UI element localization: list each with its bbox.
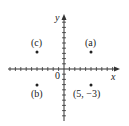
- y-axis-label: y: [54, 12, 60, 23]
- point-c: (c): [31, 37, 42, 54]
- y-axis-arrow-icon: [62, 14, 67, 20]
- point-given: (5, −3): [73, 84, 100, 101]
- point-b-dot: [36, 84, 39, 87]
- point-a-label: (a): [85, 37, 96, 49]
- point-given-dot: [90, 84, 93, 87]
- point-a: (a): [85, 37, 96, 54]
- point-given-label: (5, −3): [73, 88, 100, 100]
- point-c-dot: [36, 51, 39, 54]
- x-axis-label: x: [110, 71, 116, 82]
- coordinate-plane: x y 0 (a) (b) (c) (5, −3): [0, 0, 129, 126]
- point-b: (b): [31, 84, 43, 101]
- y-axis: [62, 14, 67, 121]
- point-a-dot: [90, 51, 93, 54]
- origin-label: 0: [55, 70, 60, 81]
- point-c-label: (c): [31, 37, 42, 49]
- point-b-label: (b): [31, 88, 43, 100]
